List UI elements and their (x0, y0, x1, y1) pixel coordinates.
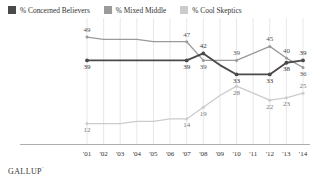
x-tick-label: '11 (249, 150, 257, 158)
data-point-marker (268, 45, 271, 48)
data-point-marker (185, 59, 189, 63)
data-point-marker (202, 106, 205, 109)
x-tick-label: '12 (266, 150, 274, 158)
data-label: 23 (283, 100, 290, 108)
data-point-marker (302, 66, 305, 69)
x-tick-label: '01 (83, 150, 91, 158)
gallup-climate-change-line-chart: % Concerned Believers% Mixed Middle% Coo… (0, 0, 316, 184)
series-line-0 (87, 53, 303, 74)
data-point-marker (185, 40, 188, 43)
data-label: 25 (300, 82, 307, 90)
data-label: 12 (84, 126, 91, 134)
chart-legend: % Concerned Believers% Mixed Middle% Coo… (8, 4, 256, 16)
data-label: 38 (283, 65, 290, 73)
legend-item-0: % Concerned Believers (8, 6, 90, 15)
x-tick-label: '07 (183, 150, 191, 158)
square-swatch-icon (104, 6, 112, 14)
data-label: 45 (266, 35, 273, 43)
data-label: 28 (233, 89, 240, 97)
data-point-marker (185, 117, 188, 120)
data-point-marker (85, 59, 89, 63)
data-point-marker (235, 73, 239, 77)
data-label: 33 (266, 77, 273, 85)
data-label: 14 (183, 121, 190, 129)
data-label: 39 (200, 63, 207, 71)
data-label: 19 (200, 110, 207, 118)
data-label: 47 (183, 31, 190, 39)
data-point-marker (202, 59, 205, 62)
square-swatch-icon (180, 6, 188, 14)
data-point-marker (86, 36, 89, 39)
x-tick-label: '03 (116, 150, 124, 158)
x-tick-label: '10 (232, 150, 240, 158)
data-point-marker (285, 57, 288, 60)
square-swatch-icon (8, 6, 16, 14)
data-label: 36 (300, 70, 307, 78)
legend-label: % Concerned Believers (20, 6, 90, 15)
data-label: 33 (233, 77, 240, 85)
legend-label: % Cool Skeptics (192, 6, 241, 15)
x-tick-label: '13 (282, 150, 290, 158)
legend-label: % Mixed Middle (116, 6, 167, 15)
data-label: 49 (84, 26, 91, 34)
data-label: 39 (84, 63, 91, 71)
legend-item-2: % Cool Skeptics (180, 6, 241, 15)
data-label: 22 (266, 103, 273, 111)
legend-item-1: % Mixed Middle (104, 6, 167, 15)
data-point-marker (302, 92, 305, 95)
x-tick-label: '08 (199, 150, 207, 158)
x-tick-label: '02 (99, 150, 107, 158)
x-tick-label: '05 (149, 150, 157, 158)
data-label: 42 (200, 42, 207, 50)
gallup-brand-footer: GALLUP’ (8, 166, 44, 176)
x-axis: '01'02'03'04'05'06'07'08'09'10'11'12'13'… (0, 148, 316, 162)
data-point-marker (268, 99, 271, 102)
data-label: 39 (233, 49, 240, 57)
x-tick-label: '14 (299, 150, 307, 158)
data-point-marker (235, 85, 238, 88)
data-point-marker (201, 52, 205, 56)
data-label: 39 (300, 49, 307, 57)
x-tick-label: '09 (216, 150, 224, 158)
data-label: 39 (183, 63, 190, 71)
brand-text: GALLUP (8, 167, 42, 176)
data-point-marker (268, 73, 272, 77)
data-point-marker (301, 59, 305, 63)
data-point-marker (235, 59, 238, 62)
data-point-marker (284, 61, 288, 65)
trademark-mark: ’ (42, 166, 44, 171)
data-label: 40 (283, 47, 290, 55)
data-point-marker (285, 96, 288, 99)
data-point-marker (86, 122, 89, 125)
x-tick-label: '04 (133, 150, 141, 158)
x-tick-label: '06 (166, 150, 174, 158)
